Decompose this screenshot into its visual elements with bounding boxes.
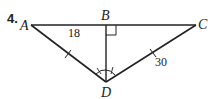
- segment-label-CD: 30: [155, 55, 167, 69]
- segment-CD: [106, 25, 196, 82]
- right-angle-mark: [106, 25, 116, 35]
- point-label-D: D: [100, 85, 111, 99]
- segment-label-AB: 18: [68, 26, 80, 40]
- angle-arc-BDC: [106, 70, 115, 75]
- triangle-diagram: 4. A B C D 18 30: [0, 0, 217, 99]
- point-label-B: B: [101, 8, 110, 23]
- point-label-C: C: [198, 17, 208, 32]
- problem-number: 4.: [7, 11, 18, 26]
- point-label-A: A: [19, 18, 29, 33]
- geometry-figure: 4. A B C D 18 30: [0, 0, 217, 99]
